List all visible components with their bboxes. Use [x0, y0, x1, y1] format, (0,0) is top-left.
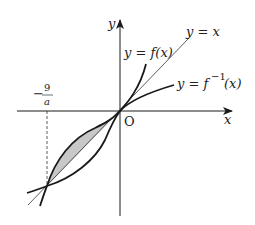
svg-text:−: −	[33, 86, 44, 101]
svg-text:a: a	[44, 96, 50, 107]
shaded-region	[47, 111, 120, 186]
svg-text:y = f: y = f	[176, 76, 211, 91]
y-axis-label: y	[107, 16, 116, 31]
x-axis-label: x	[224, 112, 232, 127]
origin-label: O	[124, 114, 135, 129]
svg-text:(x): (x)	[224, 76, 241, 91]
curve-f-label: y = f(x)	[123, 45, 173, 60]
svg-text:9: 9	[44, 82, 50, 93]
marker-fraction-label: − 9 a	[33, 82, 53, 107]
diagram-canvas: y x O y = f(x) y = x y = f −1 (x) − 9 a	[0, 0, 255, 225]
curve-f-inverse-label: y = f −1 (x)	[176, 71, 241, 91]
identity-label: y = x	[185, 24, 221, 39]
